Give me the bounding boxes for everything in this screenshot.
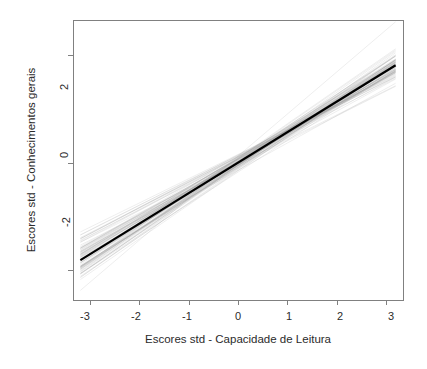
y-axis-title: Escores std - Conhecimentos gerais: [25, 68, 37, 253]
x-tick-label-6: 3: [388, 310, 394, 322]
r-plot-canvas: -3 -2 -1 0 1 2 3 -2 0 2 Escores std - Ca…: [0, 0, 427, 369]
plot-svg: [0, 0, 427, 369]
y-tick-label-0: -2: [60, 217, 72, 227]
y-tick-label-2: 2: [58, 84, 70, 90]
x-tick-label-1: -2: [131, 310, 141, 322]
x-axis-title: Escores std - Capacidade de Leitura: [145, 333, 331, 345]
y-tick-label-1: 0: [58, 152, 70, 158]
x-tick-label-4: 1: [286, 310, 292, 322]
x-tick-label-0: -3: [80, 310, 90, 322]
x-tick-label-3: 0: [235, 310, 241, 322]
x-tick-label-5: 2: [337, 310, 343, 322]
x-tick-label-2: -1: [182, 310, 192, 322]
